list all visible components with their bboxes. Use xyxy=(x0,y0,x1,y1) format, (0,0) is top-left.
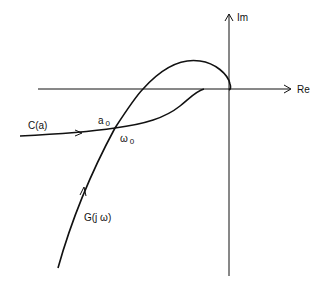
amplitude-a0-label: a0 xyxy=(98,116,110,126)
g-jw-label: G(j ω) xyxy=(84,213,111,223)
imag-axis-label: Im xyxy=(237,13,248,23)
amplitude-symbol: a xyxy=(98,115,104,126)
frequency-symbol: ω xyxy=(120,133,128,144)
c-a-label: C(a) xyxy=(28,121,47,131)
c-a-curve xyxy=(20,89,204,136)
g-jw-curve xyxy=(58,61,231,268)
diagram-graphics xyxy=(0,0,321,284)
frequency-subscript: 0 xyxy=(130,137,134,146)
real-axis-label: Re xyxy=(297,85,310,95)
amplitude-subscript: 0 xyxy=(106,119,110,128)
nyquist-diagram: Im Re C(a) G(j ω) a0 ω0 xyxy=(0,0,321,284)
frequency-w0-label: ω0 xyxy=(120,134,134,144)
